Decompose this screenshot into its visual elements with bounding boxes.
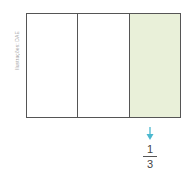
arrow-down-icon (146, 127, 154, 141)
illustration-credit: Ilustrações: DAE (14, 10, 22, 70)
fraction-bar (143, 156, 157, 157)
rectangle-part-1 (27, 14, 77, 117)
rectangle-part-2 (77, 14, 128, 117)
fraction-label: 1 3 (142, 143, 158, 170)
rectangle-part-3-shaded (129, 14, 180, 117)
fraction-rectangle (26, 13, 181, 118)
fraction-denominator: 3 (142, 158, 158, 170)
fraction-numerator: 1 (142, 143, 158, 155)
